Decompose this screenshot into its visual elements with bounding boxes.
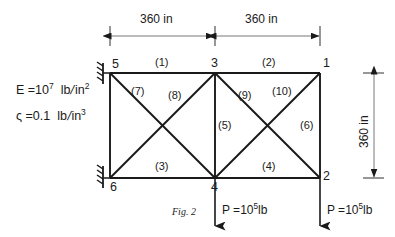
load-arrows — [215, 178, 320, 226]
node-label-6: 6 — [110, 181, 117, 194]
node-label-1: 1 — [323, 57, 330, 70]
unit-denominator: in — [71, 109, 81, 123]
youngs-modulus-unit: lb/in2 — [57, 83, 89, 97]
load-text: P =10 — [327, 203, 358, 217]
unit-denominator: in — [75, 83, 85, 97]
truss-figure: 360 in 360 in 360 in E =107 lb/in2 ς =0.… — [0, 0, 395, 237]
load-label-node-4: P =105lb — [222, 203, 267, 216]
material-property-youngs-modulus: E =107 lb/in2 — [16, 82, 89, 97]
member-label-8: (8) — [168, 90, 181, 101]
member-label-2: (2) — [262, 57, 275, 68]
figure-caption: Fig. 2 — [172, 207, 196, 217]
dim-label-right-span: 360 in — [245, 13, 278, 25]
support-node-5 — [97, 62, 110, 84]
member-label-10: (10) — [272, 86, 292, 97]
top-dimension-lines — [110, 26, 320, 46]
support-node-6 — [97, 165, 110, 188]
node-label-2: 2 — [323, 170, 330, 183]
member-label-9: (9) — [238, 90, 251, 101]
density-unit: lb/in3 — [54, 109, 86, 123]
load-label-node-2: P =105lb — [327, 203, 372, 216]
member-label-6: (6) — [300, 120, 313, 131]
dim-label-left-span: 360 in — [140, 13, 173, 25]
dim-label-height: 360 in — [358, 115, 370, 148]
material-property-density: ς =0.1 lb/in3 — [16, 108, 86, 123]
unit-denominator-exponent: 2 — [85, 81, 90, 91]
node-label-5: 5 — [112, 58, 119, 71]
member-label-4: (4) — [262, 161, 275, 172]
load-unit: lb — [258, 203, 267, 217]
load-text: P =10 — [222, 203, 253, 217]
youngs-modulus-text: E =10 — [16, 83, 49, 97]
node-label-3: 3 — [211, 57, 218, 70]
node-label-4: 4 — [211, 181, 218, 194]
member-label-5: (5) — [218, 120, 231, 131]
load-unit: lb — [363, 203, 372, 217]
unit-denominator-exponent: 3 — [81, 107, 86, 117]
member-label-1: (1) — [155, 57, 168, 68]
youngs-modulus-exponent: 7 — [49, 81, 54, 91]
density-text: ς =0.1 — [16, 109, 50, 123]
member-label-3: (3) — [155, 161, 168, 172]
member-label-7: (7) — [131, 86, 144, 97]
